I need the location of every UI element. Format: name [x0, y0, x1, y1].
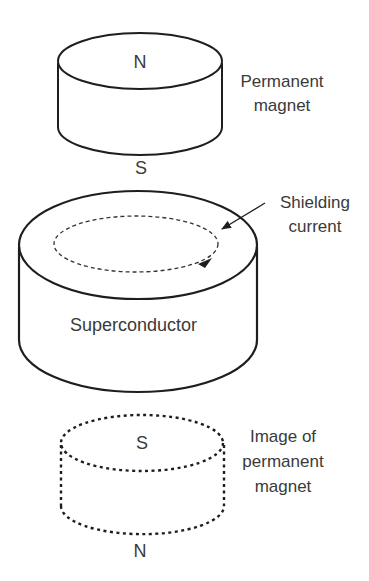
- shielding-current-pointer-arrow: [222, 203, 265, 229]
- superconductor-label: Superconductor: [70, 315, 197, 336]
- image-magnet-label: Image of permanent magnet: [230, 424, 336, 499]
- magnet-bottom-pole-label: S: [126, 158, 156, 179]
- permanent-magnet-label-line1: Permanent: [228, 70, 336, 94]
- superconductor-cylinder: [19, 191, 257, 392]
- shielding-current-loop: [54, 216, 218, 272]
- permanent-magnet-label-line2: magnet: [228, 94, 336, 118]
- image-magnet-top-pole-label: S: [127, 433, 157, 454]
- image-magnet-label-line3: magnet: [230, 474, 336, 499]
- diagram-canvas: N S Permanent magnet Superconductor Shie…: [0, 0, 369, 581]
- magnet-top-pole-label: N: [125, 52, 155, 73]
- shielding-current-label: Shielding current: [268, 191, 362, 239]
- current-direction-arrowhead: [198, 258, 212, 268]
- image-magnet-label-line1: Image of: [230, 424, 336, 449]
- shielding-current-label-line2: current: [268, 215, 362, 239]
- image-magnet-bottom-pole-label: N: [125, 541, 155, 562]
- shielding-current-label-line1: Shielding: [268, 191, 362, 215]
- image-magnet-label-line2: permanent: [230, 449, 336, 474]
- permanent-magnet-label: Permanent magnet: [228, 70, 336, 118]
